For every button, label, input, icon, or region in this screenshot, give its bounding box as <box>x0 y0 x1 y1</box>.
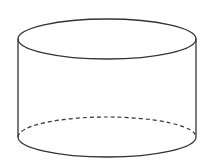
bottom-front-arc <box>18 137 196 157</box>
cylinder-diagram <box>0 0 209 163</box>
bottom-hidden-arc <box>18 117 196 137</box>
top-face-ellipse <box>18 19 196 59</box>
